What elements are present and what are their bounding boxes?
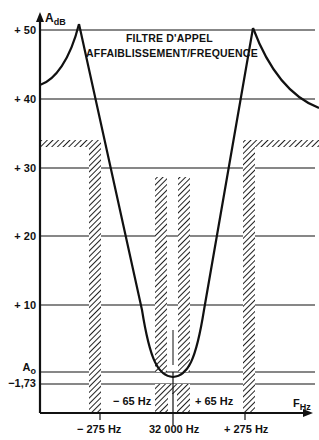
chart-title: FILTRE D'APPEL [126, 32, 213, 44]
y-axis-label: AdB [45, 11, 66, 25]
x-axis-main: F [293, 397, 300, 409]
grid-lines [40, 30, 315, 384]
y-axis-sub: dB [54, 17, 66, 27]
axes [36, 12, 313, 420]
attenuation-chart [0, 0, 319, 440]
y-tick-50: + 50 [2, 24, 36, 36]
ao-sub: o [31, 366, 37, 376]
x-axis-label: FHz [293, 397, 311, 409]
y-axis-main: A [45, 11, 54, 25]
x-tick-center: 32 000 Hz [149, 423, 199, 435]
chart-subtitle: AFFAIBLISSEMENT/FREQUENCE [86, 47, 258, 59]
label-plus-65hz: + 65 Hz [195, 395, 233, 407]
y-tick-20: + 20 [2, 230, 36, 242]
y-tick-30: + 30 [2, 162, 36, 174]
y-tick-ao: Ao [2, 361, 36, 373]
y-tick-10: + 10 [2, 299, 36, 311]
x-tick-minus-275: − 275 Hz [77, 423, 121, 435]
ao-main: A [23, 361, 31, 373]
y-tick-40: + 40 [2, 93, 36, 105]
y-tick-min: −1,73 [2, 377, 36, 389]
x-tick-plus-275: + 275 Hz [224, 423, 268, 435]
x-axis-sub: Hz [300, 402, 311, 412]
label-minus-65hz: − 65 Hz [113, 395, 151, 407]
